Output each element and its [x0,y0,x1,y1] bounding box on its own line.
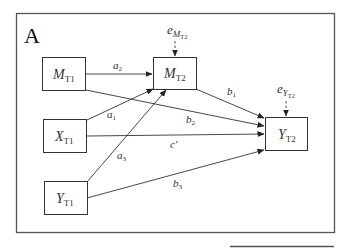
edge-b3 [87,150,264,198]
node-m-t2: MT2 [154,58,197,90]
path-label-b1: b1 [227,85,237,99]
node-m-t1: MT1 [43,58,86,91]
node-x-t1: XT1 [44,120,87,153]
path-label-a1: a1 [107,108,117,122]
error-label-y-t2: eYT2 [277,81,295,99]
panel-label: A [24,23,40,48]
node-y-t1: YT1 [45,182,88,215]
edge-a1 [87,89,153,120]
path-diagram: A MT1 XT1 YT1 MT2 YT2 eMT2 eYT2 a2 a1 a3… [0,0,347,248]
edge-c-prime [87,134,264,136]
path-label-b2: b2 [186,113,196,127]
path-label-c-prime: c' [170,138,178,150]
node-y-t2: YT2 [266,118,308,151]
path-label-a3: a3 [117,149,127,163]
error-label-m-t2: eMT2 [167,22,188,40]
path-label-a2: a2 [113,59,123,73]
path-label-b3: b3 [173,177,183,191]
